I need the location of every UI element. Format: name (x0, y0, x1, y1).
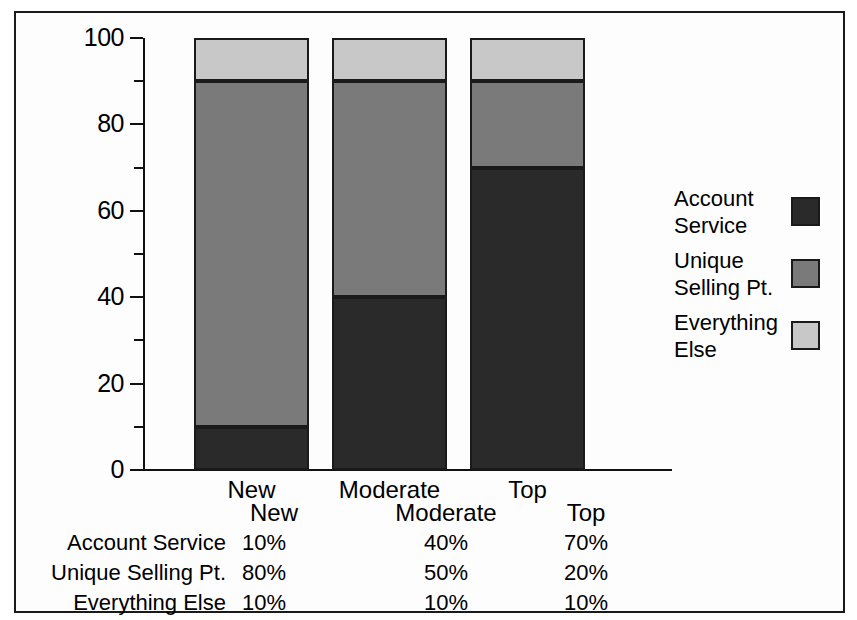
legend-swatch (791, 197, 820, 226)
legend-item[interactable]: AccountService (674, 185, 844, 247)
table-row: Everything Else10%10%10% (22, 588, 672, 618)
y-tick-label: 60 (62, 198, 124, 223)
y-tick-minor (134, 80, 143, 82)
y-tick-major (130, 296, 143, 298)
legend-item-label: EverythingElse (674, 309, 779, 363)
table-cell: 40% (376, 530, 516, 556)
table-cell: 10% (236, 530, 376, 556)
y-tick-label: 0 (62, 457, 124, 482)
y-axis-line (143, 38, 145, 471)
bar-segment (332, 38, 447, 81)
table-column-header: New (236, 499, 376, 527)
bar-segment (332, 297, 447, 470)
y-tick-major (130, 210, 143, 212)
data-table: NewModerateTopAccount Service10%40%70%Un… (22, 498, 672, 618)
legend-item-label: AccountService (674, 185, 779, 239)
y-tick-label: 40 (62, 284, 124, 309)
table-cell: 70% (516, 530, 656, 556)
table-cell: 20% (516, 560, 656, 586)
y-tick-minor (134, 426, 143, 428)
table-cell: 10% (376, 590, 516, 616)
legend-item[interactable]: EverythingElse (674, 309, 844, 371)
y-tick-major (130, 469, 143, 471)
stacked-bar (332, 13, 447, 470)
bar-segment (470, 168, 585, 470)
bar-segment (332, 81, 447, 297)
table-row-label: Everything Else (22, 590, 236, 616)
legend-swatch (791, 259, 820, 288)
bar-segment (194, 81, 309, 427)
y-tick-label: 20 (62, 371, 124, 396)
table-cell: 50% (376, 560, 516, 586)
table-row: Account Service10%40%70% (22, 528, 672, 558)
legend-item[interactable]: UniqueSelling Pt. (674, 247, 844, 309)
table-cell: 10% (516, 590, 656, 616)
chart-figure: 020406080100 NewModerateTop AccountServi… (14, 11, 845, 613)
stacked-bar (194, 13, 309, 470)
y-tick-label: 100 (62, 25, 124, 50)
legend-item-label: UniqueSelling Pt. (674, 247, 779, 301)
bar-segment (194, 38, 309, 81)
legend-swatch (791, 321, 820, 350)
y-tick-minor (134, 253, 143, 255)
stacked-bar (470, 13, 585, 470)
bar-segment (470, 38, 585, 81)
table-column-header: Top (516, 499, 656, 527)
y-tick-minor (134, 167, 143, 169)
y-tick-major (130, 37, 143, 39)
table-header-row: NewModerateTop (22, 498, 672, 528)
bar-segment (194, 427, 309, 470)
table-column-header: Moderate (376, 499, 516, 527)
table-row-label: Account Service (22, 530, 236, 556)
table-cell: 10% (236, 590, 376, 616)
table-cell: 80% (236, 560, 376, 586)
y-tick-label: 80 (62, 111, 124, 136)
y-tick-major (130, 123, 143, 125)
table-row: Unique Selling Pt.80%50%20% (22, 558, 672, 588)
table-row-label: Unique Selling Pt. (22, 560, 236, 586)
chart-legend: AccountServiceUniqueSelling Pt.Everythin… (674, 185, 844, 371)
y-tick-major (130, 383, 143, 385)
y-tick-minor (134, 339, 143, 341)
bar-segment (470, 81, 585, 167)
